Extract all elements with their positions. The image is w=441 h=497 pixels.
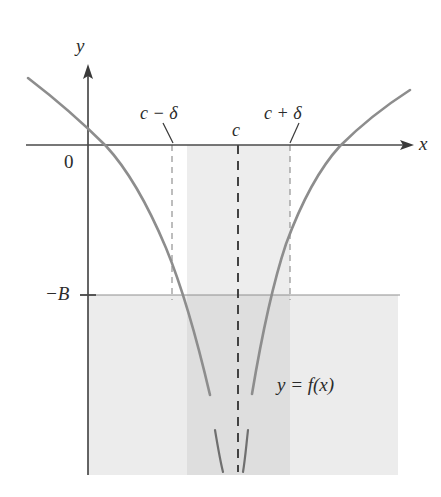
c-plus-delta-label: c + δ — [264, 104, 302, 122]
function-equation-label: y = f(x) — [277, 375, 334, 394]
leader-c-minus-delta — [163, 123, 173, 143]
c-label: c — [232, 121, 240, 139]
label-leader-lines — [163, 123, 299, 143]
leader-c-plus-delta — [290, 123, 299, 143]
origin-label: 0 — [64, 152, 74, 171]
x-axis-label: x — [419, 134, 427, 153]
neg-b-label: −B — [45, 284, 69, 303]
c-minus-delta-label: c − δ — [140, 104, 178, 122]
figure-canvas — [0, 0, 441, 497]
calculus-figure: y x 0 −B c − δ c c + δ y = f(x) — [0, 0, 441, 497]
y-axis-label: y — [76, 36, 84, 55]
shaded-regions — [88, 145, 398, 475]
